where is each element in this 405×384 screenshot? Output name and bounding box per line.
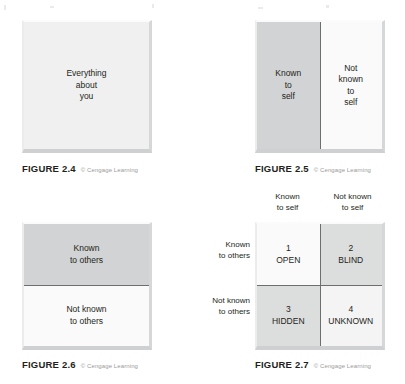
figure-2-6-caption: FIGURE 2.6 © Cengage Learning: [22, 359, 138, 370]
column-header-line: Known: [275, 192, 299, 201]
column-header-line: to self: [277, 203, 298, 212]
panel-line: Not known: [66, 304, 106, 314]
panel-line: Known: [73, 243, 99, 253]
panel-line: about: [76, 80, 97, 90]
panel-line: Everything: [66, 68, 106, 78]
row-header-known-to-others: Known to others: [150, 240, 250, 262]
panel-line: to: [285, 80, 292, 90]
panel-not-known-to-others: Not known to others: [24, 285, 149, 346]
quadrant-number: 3: [272, 304, 305, 315]
row-header-line: Not known: [212, 296, 250, 305]
row-header-not-known-to-others: Not known to others: [150, 296, 250, 318]
quadrant-hidden: 3 HIDDEN: [257, 285, 320, 346]
caption-credit: © Cengage Learning: [314, 363, 371, 369]
column-header-not-known-to-self: Not known to self: [320, 192, 385, 214]
figure-2-6-plate: Known to others Not known to others: [22, 222, 152, 350]
panel-not-known-to-self: Not known to self: [320, 22, 383, 149]
figure-2-7-caption: FIGURE 2.7 © Cengage Learning: [255, 359, 371, 370]
figure-2-7: Known to self Not known to self Known to…: [205, 192, 405, 384]
caption-title: FIGURE 2.7: [255, 359, 309, 370]
figure-2-4-plate: Everything about you: [22, 20, 152, 153]
panel-line: to others: [70, 316, 103, 326]
quadrant-label: UNKNOWN: [328, 316, 373, 327]
caption-credit: © Cengage Learning: [81, 363, 138, 369]
caption-title: FIGURE 2.5: [255, 163, 309, 174]
panel-line: self: [344, 97, 357, 107]
figure-2-6: Known to others Not known to others FIGU…: [0, 192, 205, 384]
panel-line: Known: [275, 68, 301, 78]
quadrant-label: HIDDEN: [272, 316, 305, 327]
figure-2-5-plate: Known to self Not known to self: [255, 20, 385, 153]
textbook-figure-page: Everything about you FIGURE 2.4 © Cengag…: [0, 0, 405, 384]
panel-known-to-self: Known to self: [257, 22, 320, 149]
caption-title: FIGURE 2.6: [22, 359, 76, 370]
figure-2-7-horizontal-divider: [257, 285, 382, 286]
caption-title: FIGURE 2.4: [22, 163, 76, 174]
panel-known-to-others: Known to others: [24, 224, 149, 285]
panel-line: to: [347, 86, 354, 96]
quadrant-label: OPEN: [276, 255, 300, 266]
panel-line: Not: [344, 63, 357, 73]
column-header-line: Not known: [334, 192, 372, 201]
figure-2-5: Known to self Not known to self FIGURE 2…: [205, 0, 405, 192]
figure-2-4: Everything about you FIGURE 2.4 © Cengag…: [0, 0, 205, 192]
panel-line: you: [80, 91, 94, 101]
figure-2-4-caption: FIGURE 2.4 © Cengage Learning: [22, 163, 138, 174]
column-header-line: to self: [342, 203, 363, 212]
row-header-line: to others: [219, 251, 250, 260]
panel-line: to others: [70, 255, 103, 265]
panel-line: known: [338, 74, 363, 84]
quadrant-number: 4: [328, 304, 373, 315]
quadrant-open: 1 OPEN: [257, 224, 320, 285]
row-header-line: to others: [219, 307, 250, 316]
quadrant-number: 1: [276, 243, 300, 254]
quadrant-label: BLIND: [338, 255, 363, 266]
caption-credit: © Cengage Learning: [81, 167, 138, 173]
row-header-line: Known: [226, 240, 250, 249]
figure-2-7-plate: 1 OPEN 2 BLIND 3 HIDDEN 4 UNKNOWN: [255, 222, 385, 350]
quadrant-blind: 2 BLIND: [320, 224, 383, 285]
quadrant-number: 2: [338, 243, 363, 254]
figure-2-5-caption: FIGURE 2.5 © Cengage Learning: [255, 163, 371, 174]
column-header-known-to-self: Known to self: [255, 192, 320, 214]
figure-2-5-vertical-divider: [320, 22, 321, 149]
panel-line: self: [282, 91, 295, 101]
quadrant-unknown: 4 UNKNOWN: [320, 285, 383, 346]
caption-credit: © Cengage Learning: [314, 167, 371, 173]
figure-2-6-horizontal-divider: [24, 285, 149, 286]
panel-everything-about-you: Everything about you: [24, 22, 149, 149]
